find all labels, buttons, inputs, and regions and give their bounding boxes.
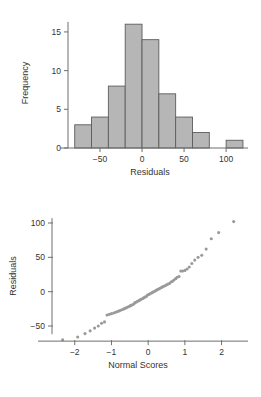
histogram-bar: [176, 117, 193, 148]
scatter-point: [190, 262, 193, 265]
scatter-point: [193, 259, 196, 262]
scatter-x-axis-label: Normal Scores: [108, 360, 168, 370]
scatter-point: [210, 237, 213, 240]
scatter-y-tick-label: −50: [31, 321, 46, 331]
scatter-x-tick-label: 1: [183, 347, 188, 357]
histogram-bar: [125, 24, 142, 148]
scatter-point: [217, 231, 220, 234]
scatter-point: [232, 220, 235, 223]
scatter-y-tick-label: 100: [31, 218, 45, 228]
histogram-x-tick-label: 100: [219, 154, 233, 164]
histogram-bar: [226, 140, 243, 148]
histogram-bar: [159, 94, 176, 148]
residual-diagnostics-figure: 051015−50050100 Residuals Frequency −500…: [0, 0, 261, 397]
histogram-bar: [192, 133, 209, 148]
scatter-point: [83, 332, 86, 335]
scatter-x-tick-label: 0: [146, 347, 151, 357]
histogram-y-tick-label: 5: [56, 104, 61, 114]
scatter-y-tick-label: 50: [36, 252, 46, 262]
histogram-y-tick-label: 10: [52, 66, 62, 76]
scatter-point: [200, 254, 203, 257]
scatter-x-tick-label: 2: [219, 347, 224, 357]
scatter-y-axis-label: Residuals: [8, 256, 18, 296]
histogram-bar: [142, 40, 159, 148]
scatter-point: [197, 256, 200, 259]
scatter-point: [89, 329, 92, 332]
histogram-bar: [75, 125, 92, 148]
scatter-y-tick-label: 0: [40, 287, 45, 297]
scatter-point: [103, 320, 106, 323]
scatter-point: [177, 275, 180, 278]
scatter-x-tick-label: −1: [107, 347, 117, 357]
scatter-point: [93, 327, 96, 330]
histogram-x-axis-label: Residuals: [130, 167, 170, 177]
scatter-point: [97, 324, 100, 327]
scatter-point: [205, 248, 208, 251]
histogram-y-tick-label: 15: [52, 27, 62, 37]
figure-canvas: 051015−50050100 Residuals Frequency −500…: [0, 0, 261, 397]
histogram-x-tick-label: 0: [140, 154, 145, 164]
histogram-bar: [92, 117, 109, 148]
scatter-point: [188, 265, 191, 268]
histogram-x-tick-label: −50: [93, 154, 108, 164]
scatter-point: [100, 322, 103, 325]
histogram-bar: [108, 86, 125, 148]
histogram-y-axis-label: Frequency: [20, 61, 30, 104]
scatter-point: [76, 335, 79, 338]
histogram-x-tick-label: 50: [179, 154, 189, 164]
scatter-x-tick-label: −2: [70, 347, 80, 357]
